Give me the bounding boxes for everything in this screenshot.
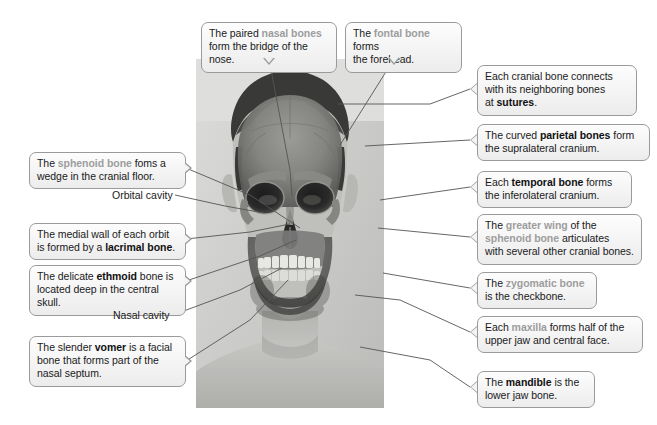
callout-nasal-bones[interactable]: The paired nasal bones form the bridge o… xyxy=(201,22,337,73)
callout-tail-vomer-inner xyxy=(184,356,190,366)
callout-line: The fontal bone forms xyxy=(353,27,454,53)
callout-tail-parietal-inner xyxy=(471,135,477,145)
callout-tail-greaterwing-inner xyxy=(471,232,477,242)
callout-parietal-bones[interactable]: The curved parietal bones form the supra… xyxy=(477,124,650,161)
callout-line: with several other cranial bones. xyxy=(485,245,634,258)
callout-maxilla[interactable]: Each maxilla forms half of the upper jaw… xyxy=(477,316,643,353)
figure-canvas: The paired nasal bones form the bridge o… xyxy=(0,0,657,425)
callout-tail-lacrimal-inner xyxy=(184,234,190,244)
callout-line: sphenoid bone articulates xyxy=(485,232,634,245)
callout-frontal-bone[interactable]: The fontal bone forms the forehead. xyxy=(345,22,462,73)
callout-line: The paired nasal bones xyxy=(209,27,329,40)
skull-photograph xyxy=(196,59,384,408)
callout-tail-nasal-inner xyxy=(264,57,274,63)
callout-tail-zygomatic-inner xyxy=(471,283,477,293)
callout-line: nasal septum. xyxy=(37,367,178,380)
callout-temporal-bone[interactable]: Each temporal bone forms the inferolater… xyxy=(477,171,632,208)
callout-line: The zygomatic bone xyxy=(485,277,589,290)
callout-vomer[interactable]: The slender vomer is a facial bone that … xyxy=(29,336,186,387)
callout-tail-mandible-inner xyxy=(471,382,477,392)
callout-tail-frontal-inner xyxy=(389,57,399,63)
callout-line: the supralateral cranium. xyxy=(485,142,642,155)
callout-mandible[interactable]: The mandible is the lower jaw bone. xyxy=(477,371,595,408)
callout-greater-wing-sphenoid[interactable]: The greater wing of the sphenoid bone ar… xyxy=(477,214,642,265)
callout-tail-ethmoid-inner xyxy=(184,276,190,286)
callout-sphenoid-bone[interactable]: The sphenoid bone foms a wedge in the cr… xyxy=(29,152,186,189)
callout-line: with its neighboring bones xyxy=(485,83,629,96)
callout-line: is formed by a lacrimal bone. xyxy=(37,241,178,254)
callout-line: located deep in the central skull. xyxy=(37,283,178,309)
callout-line: The medial wall of each orbit xyxy=(37,228,178,241)
callout-line: lower jaw bone. xyxy=(485,389,587,402)
callout-line: at sutures. xyxy=(485,96,629,109)
callout-line: The mandible is the xyxy=(485,376,587,389)
callout-line: The curved parietal bones form xyxy=(485,129,642,142)
callout-tail-sphenoid-inner xyxy=(184,163,190,173)
callout-line: The slender vomer is a facial xyxy=(37,341,178,354)
callout-line: The greater wing of the xyxy=(485,219,634,232)
callout-line: bone that forms part of the xyxy=(37,354,178,367)
callout-line: upper jaw and central face. xyxy=(485,334,635,347)
label-nasal-cavity: Nasal cavity xyxy=(113,309,170,321)
callout-line: the forehead. xyxy=(353,53,454,66)
callout-line: The delicate ethmoid bone is xyxy=(37,270,178,283)
callout-zygomatic-bone[interactable]: The zygomatic bone is the checkbone. xyxy=(477,272,597,309)
callout-line: the inferolateral cranium. xyxy=(485,189,624,202)
callout-tail-maxilla-inner xyxy=(471,327,477,337)
callout-line: Each temporal bone forms xyxy=(485,176,624,189)
callout-line: wedge in the cranial floor. xyxy=(37,170,178,183)
callout-line: is the checkbone. xyxy=(485,290,589,303)
callout-tail-sutures-inner xyxy=(471,84,477,94)
label-orbital-cavity: Orbital cavity xyxy=(112,189,173,201)
callout-line: Each maxilla forms half of the xyxy=(485,321,635,334)
callout-lacrimal-bone[interactable]: The medial wall of each orbit is formed … xyxy=(29,223,186,260)
callout-line: Each cranial bone connects xyxy=(485,70,629,83)
callout-tail-temporal-inner xyxy=(471,182,477,192)
callout-sutures[interactable]: Each cranial bone connects with its neig… xyxy=(477,65,637,116)
callout-line: The sphenoid bone foms a xyxy=(37,157,178,170)
